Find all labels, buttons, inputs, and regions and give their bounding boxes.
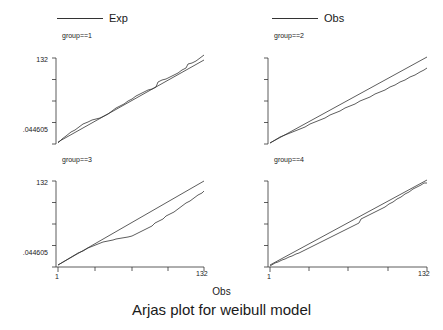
plot-svg-1	[52, 44, 210, 148]
y-tick-top-1: 132	[24, 56, 48, 64]
x-tick-right-3: 132	[196, 270, 208, 278]
panel-group-4: group==4 1 132	[222, 155, 443, 285]
panel-title-1: group==1	[62, 32, 92, 40]
x-tick-right-4: 132	[418, 270, 430, 278]
plot-svg-2	[264, 44, 434, 148]
legend-label-exp: Exp	[109, 12, 128, 24]
x-tick-left-4: 1	[267, 273, 271, 281]
legend-line-obs-icon	[272, 18, 318, 19]
panel-title-2: group==2	[274, 32, 304, 40]
x-axis-label: Obs	[0, 286, 443, 298]
legend-item-obs: Obs	[272, 12, 344, 24]
plot-area-2	[264, 44, 434, 148]
legend-item-exp: Exp	[57, 12, 128, 24]
panel-group-2: group==2	[222, 30, 443, 160]
plot-svg-3	[52, 167, 210, 279]
arjas-plot-figure: Exp Obs group==1 132 .044605	[0, 0, 443, 330]
y-tick-bottom-3: .044605	[10, 249, 48, 257]
plot-svg-4	[264, 167, 434, 279]
panel-group-3: group==3 132 .044605 1 13	[0, 155, 222, 285]
plot-area-1	[52, 44, 210, 148]
legend-label-obs: Obs	[324, 12, 344, 24]
plot-area-3	[52, 167, 210, 279]
y-tick-bottom-1: .044605	[10, 126, 48, 134]
panel-group-1: group==1 132 .044605	[0, 30, 222, 160]
panel-title-4: group==4	[274, 156, 304, 164]
x-tick-left-3: 1	[55, 273, 59, 281]
legend: Exp Obs	[0, 12, 443, 32]
panel-title-3: group==3	[62, 156, 92, 164]
y-tick-top-3: 132	[24, 179, 48, 187]
plot-area-4	[264, 167, 434, 279]
legend-line-exp-icon	[57, 18, 103, 19]
chart-title: Arjas plot for weibull model	[0, 301, 443, 319]
